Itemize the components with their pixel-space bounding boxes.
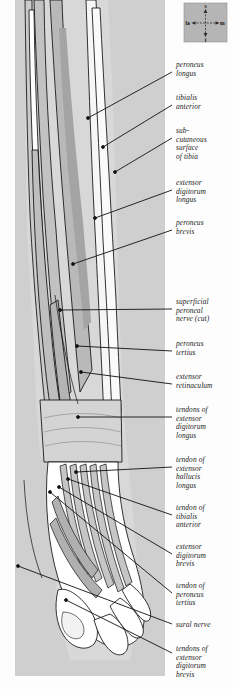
leader-dot-extensor-retinaculum: [80, 371, 83, 374]
leader-dot-peroneus-longus: [87, 117, 90, 120]
label-peroneus-brevis: peroneus brevis: [176, 219, 204, 236]
orientation-compass: s i la m: [183, 2, 228, 43]
label-tendons-ext-dig-brevis: tendons of extensor digitorum brevis: [176, 645, 208, 679]
label-extensor-retinaculum: extensor retinaculum: [176, 373, 213, 390]
label-subcutaneous-surface-tibia: sub- cutaneous surface of tibia: [176, 127, 207, 161]
leader-dot-tendons-ext-dig-longus: [77, 416, 80, 419]
label-tendon-ext-hallucis-longus: tendon of extensor hallucis longus: [176, 456, 205, 490]
ankle-block: [40, 400, 122, 462]
leader-dot-sural-nerve: [17, 565, 20, 568]
leader-dot-tendons-ext-dig-brevis: [65, 599, 68, 602]
label-peroneus-longus: peroneus longus: [176, 61, 204, 78]
leader-dot-peroneus-brevis: [72, 263, 75, 266]
label-extensor-digitorum-longus: extensor digitorum longus: [176, 179, 206, 205]
label-tendon-peroneus-tertius: tendon of peroneus tertius: [176, 582, 205, 608]
label-tibialis-anterior: tibialis anterior: [176, 94, 201, 111]
leader-dot-peroneus-tertius: [76, 345, 79, 348]
leader-dot-subcutaneous-surface-tibia: [114, 171, 117, 174]
label-peroneus-tertius: peroneus tertius: [176, 340, 204, 357]
leader-dot-superficial-peroneal-nerve: [59, 309, 62, 312]
leader-dot-tendon-peroneus-tertius: [49, 491, 52, 494]
leader-dot-tendon-tibialis-anterior: [67, 478, 70, 481]
label-sural-nerve: sural nerve: [176, 621, 211, 630]
leader-dot-extensor-digitorum-longus: [94, 217, 97, 220]
leader-dot-extensor-digitorum-brevis: [58, 486, 61, 489]
leader-dot-tibialis-anterior: [102, 146, 105, 149]
label-tendon-tibialis-anterior: tendon of tibialis anterior: [176, 504, 205, 530]
label-extensor-digitorum-brevis: extensor digitorum brevis: [176, 543, 206, 569]
compass-label-lateral: la: [186, 20, 191, 26]
leader-dot-tendon-ext-hallucis-longus: [75, 471, 78, 474]
compass-label-medial: m: [220, 20, 225, 26]
label-superficial-peroneal-nerve: superficial peroneal nerve (cut): [176, 298, 209, 324]
label-tendons-ext-dig-longus: tendons of extensor digitorum longus: [176, 406, 208, 440]
